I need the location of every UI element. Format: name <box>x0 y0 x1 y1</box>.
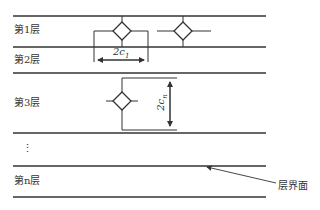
layer-3-label: 第3层 <box>14 98 40 108</box>
layer-1-label: 第1层 <box>14 25 40 35</box>
dim-h-main: 2c <box>113 46 125 57</box>
interface-pointer <box>207 167 276 183</box>
ellipsis-label: ⋮ <box>22 143 33 154</box>
interface-label: 层界面 <box>278 181 308 191</box>
layer-n-label: 第n层 <box>14 176 40 186</box>
dim-v-sub: n <box>161 94 169 99</box>
layer-boundaries <box>13 16 266 197</box>
layer-2-label: 第2层 <box>14 55 40 65</box>
dim-v-main: 2c <box>155 99 166 111</box>
dim-h-sub: 1 <box>125 52 129 60</box>
dimension-2c1-label: 2c1 <box>113 47 129 60</box>
element-2 <box>157 16 211 47</box>
dimension-2cn-label: 2cn <box>156 94 169 110</box>
